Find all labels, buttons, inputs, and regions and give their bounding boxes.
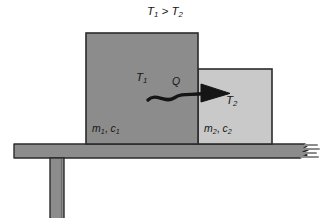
hot-mass-symbol: m <box>92 122 101 134</box>
hot-block-temperature-label: T1 <box>136 72 147 84</box>
cold-block-temperature-label: T2 <box>226 95 237 107</box>
support-table <box>14 144 319 218</box>
temperature-relation-caption: T1 > T2 <box>147 6 183 18</box>
heat-flow-label: Q <box>172 76 180 87</box>
heat-transfer-figure: T1 > T2 T1 Q T2 m1, c1 m2, c2 <box>0 0 329 218</box>
relation-left-symbol: T <box>147 5 154 17</box>
cold-mass-symbol: m <box>204 122 213 134</box>
hot-temperature-subscript: 1 <box>143 76 147 85</box>
diagram-canvas <box>0 0 329 218</box>
cold-temperature-symbol: T <box>226 94 233 106</box>
cold-temperature-subscript: 2 <box>233 99 237 108</box>
hot-heat-capacity-subscript: 1 <box>116 128 120 136</box>
relation-right-subscript: 2 <box>179 10 183 19</box>
relation-operator: > <box>158 5 171 17</box>
cold-heat-capacity-subscript: 2 <box>228 128 232 136</box>
cold-block-properties-label: m2, c2 <box>204 123 232 134</box>
table-top-surface <box>14 144 308 158</box>
relation-right-symbol: T <box>172 5 179 17</box>
hot-block-properties-label: m1, c1 <box>92 123 120 134</box>
hot-temperature-symbol: T <box>136 71 143 83</box>
